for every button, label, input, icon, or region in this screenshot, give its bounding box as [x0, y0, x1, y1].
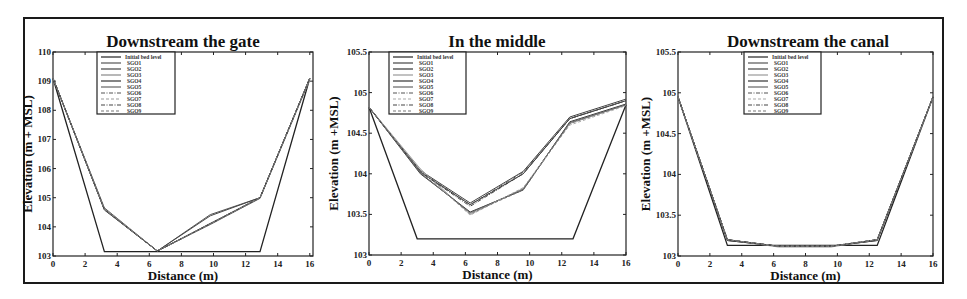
legend-label: SGO9	[127, 108, 142, 114]
series-line-sgo3	[678, 97, 933, 247]
series-line-sgo3	[53, 78, 310, 251]
y-tick-label: 103	[663, 251, 677, 261]
y-tick-label: 108	[38, 105, 52, 115]
y-tick-label: 109	[38, 76, 52, 86]
series-line-initial-bed-level	[678, 97, 933, 246]
y-tick-label: 105	[354, 88, 368, 98]
y-tick-label: 110	[38, 47, 52, 57]
y-axis-label: Elevation (m + MSL)	[20, 95, 35, 213]
series-line-sgo2	[678, 97, 933, 246]
y-tick-label: 103.5	[347, 209, 368, 219]
figure-canvas: Downstream the gate024681012141610310410…	[0, 0, 967, 299]
y-tick-label: 103.5	[656, 210, 677, 220]
series-line-sgo5	[678, 97, 933, 246]
series-line-sgo1	[678, 97, 933, 246]
x-tick-label: 2	[708, 259, 713, 269]
x-tick-label: 16	[929, 259, 939, 269]
series-line-sgo9	[369, 105, 626, 214]
legend-label: SGO9	[419, 108, 434, 114]
series-line-initial-bed-level	[53, 78, 310, 251]
series-line-sgo7	[369, 106, 626, 216]
x-tick-label: 12	[557, 258, 567, 268]
x-tick-label: 0	[51, 259, 56, 269]
series-group	[678, 97, 933, 247]
x-tick-label: 12	[241, 259, 251, 269]
x-tick-label: 12	[865, 259, 875, 269]
series-line-sgo6	[53, 78, 310, 251]
x-axis-label: Distance (m)	[462, 267, 532, 282]
y-tick-label: 105.5	[347, 47, 368, 57]
legend: Initial bed levelSGO1SGO2SGO3SGO4SGO5SGO…	[744, 52, 821, 114]
x-tick-label: 14	[273, 259, 283, 269]
series-line-sgo4	[369, 104, 626, 212]
chart-panel-1: Downstream the gate024681012141610310410…	[20, 32, 315, 283]
x-tick-label: 14	[897, 259, 907, 269]
x-tick-label: 4	[115, 259, 120, 269]
chart-title: Downstream the gate	[106, 32, 260, 51]
series-line-sgo1	[53, 78, 310, 251]
y-tick-label: 107	[38, 134, 52, 144]
x-tick-label: 0	[367, 258, 372, 268]
series-group	[369, 99, 626, 239]
y-tick-label: 106	[38, 164, 52, 174]
y-tick-label: 103	[354, 250, 368, 260]
y-tick-label: 104.5	[347, 128, 368, 138]
series-line-sgo4	[53, 78, 310, 251]
series-line-sgo9	[53, 78, 310, 251]
y-tick-label: 104	[663, 169, 677, 179]
y-axis-label: Elevation (m +MSL)	[326, 96, 341, 210]
y-tick-label: 103	[38, 251, 52, 261]
y-tick-label: 104.5	[656, 129, 677, 139]
x-tick-label: 4	[431, 258, 436, 268]
chart-title: In the middle	[448, 32, 546, 51]
legend-label: SGO9	[774, 108, 789, 114]
series-line-sgo8	[53, 78, 310, 251]
legend: Initial bed levelSGO1SGO2SGO3SGO4SGO5SGO…	[389, 52, 466, 114]
series-line-sgo5	[369, 105, 626, 213]
legend: Initial bed levelSGO1SGO2SGO3SGO4SGO5SGO…	[97, 52, 175, 114]
series-line-sgo8	[678, 97, 933, 246]
x-tick-label: 4	[740, 259, 745, 269]
x-tick-label: 16	[622, 258, 632, 268]
x-tick-label: 2	[399, 258, 404, 268]
series-line-sgo9	[678, 97, 933, 246]
y-axis-label: Elevation (m +MSL)	[638, 97, 653, 211]
x-axis-label: Distance (m)	[148, 268, 218, 283]
axes-box	[53, 52, 313, 256]
series-line-initial-bed-level	[369, 105, 626, 239]
chart-panel-3: Downstream the canal0246810121416103103.…	[638, 32, 938, 283]
x-axis-label: Distance (m)	[770, 268, 840, 283]
series-line-sgo7	[53, 78, 310, 251]
series-line-sgo7	[678, 97, 933, 246]
chart-title: Downstream the canal	[727, 32, 889, 51]
chart-panel-2: In the middle0246810121416103103.5104104…	[326, 32, 631, 282]
y-tick-label: 105	[663, 88, 677, 98]
x-tick-label: 16	[305, 259, 315, 269]
series-line-sgo3	[369, 105, 626, 215]
y-tick-label: 105.5	[656, 47, 677, 57]
series-line-sgo6	[678, 97, 933, 246]
series-group	[53, 78, 310, 251]
series-line-sgo2	[53, 78, 310, 251]
x-tick-label: 0	[676, 259, 681, 269]
y-tick-label: 104	[38, 222, 52, 232]
series-line-sgo4	[678, 97, 933, 246]
x-tick-label: 2	[83, 259, 88, 269]
x-tick-label: 14	[589, 258, 599, 268]
y-tick-label: 105	[38, 193, 52, 203]
y-tick-label: 104	[354, 169, 368, 179]
series-line-sgo5	[53, 78, 310, 251]
